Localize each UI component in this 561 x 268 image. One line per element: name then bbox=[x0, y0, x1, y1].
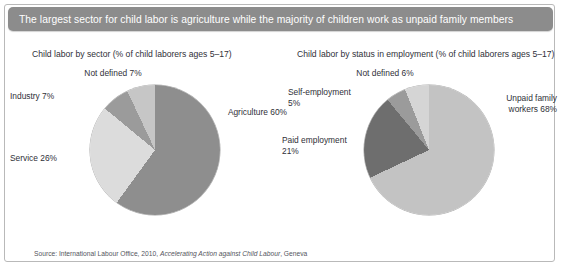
source-publication-title: Accelerating Action against Child Labour bbox=[160, 250, 280, 257]
figure-title-bar: The largest sector for child labor is ag… bbox=[8, 7, 553, 31]
pie-graphic-sector bbox=[90, 85, 220, 215]
pie-label-not-defined-status: Not defined 6% bbox=[330, 68, 440, 79]
pie-graphic-status bbox=[364, 85, 494, 215]
pie-label-agriculture: Agriculture 60% bbox=[217, 107, 287, 118]
pie-label-not-defined-sector: Not defined 7% bbox=[58, 68, 168, 79]
pie-chart-status bbox=[364, 85, 494, 215]
chart-panel-sector: Child labor by sector (% of child labore… bbox=[10, 35, 286, 235]
figure-title: The largest sector for child labor is ag… bbox=[19, 14, 513, 25]
chart-title-status: Child labor by status in employment (% o… bbox=[297, 49, 554, 59]
pie-label-paid-employment: Paid employment 21% bbox=[282, 135, 358, 157]
pie-label-unpaid-family-workers: Unpaid family workers 68% bbox=[487, 93, 557, 115]
figure-container: The largest sector for child labor is ag… bbox=[4, 4, 555, 262]
pie-chart-sector bbox=[90, 85, 220, 215]
chart-title-sector: Child labor by sector (% of child labore… bbox=[32, 49, 232, 59]
chart-panel-status: Child labor by status in employment (% o… bbox=[288, 35, 554, 235]
pie-label-industry: Industry 7% bbox=[10, 91, 83, 102]
figure-source: Source: International Labour Office, 201… bbox=[34, 250, 307, 257]
pie-label-self-employment: Self-employment 5% bbox=[288, 87, 362, 109]
source-prefix: Source: International Labour Office, 201… bbox=[34, 250, 160, 257]
pie-label-service: Service 26% bbox=[10, 153, 85, 164]
source-suffix: , Geneva bbox=[280, 250, 307, 257]
